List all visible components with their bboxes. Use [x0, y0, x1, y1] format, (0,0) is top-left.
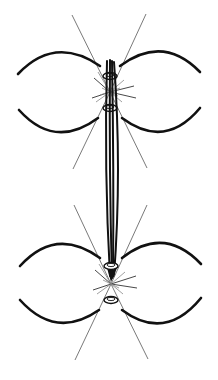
bottom-left-lower-arc [20, 300, 99, 323]
bottom-left-upper-arc [20, 244, 100, 266]
top-right-upper-arc [120, 51, 200, 72]
bottom-right-lower-arc [122, 298, 201, 323]
bottom-ray-upper-left [74, 205, 111, 284]
top-left-upper-arc [18, 52, 100, 74]
fiber-3 [112, 61, 113, 277]
bottom-right-upper-arc [122, 243, 201, 264]
spindle-diagram [0, 0, 218, 380]
top-ray-lower-left [73, 92, 110, 169]
top-left-lower-arc [19, 110, 98, 132]
top-right-lower-arc [122, 108, 200, 132]
bottom-ray-lower-left [75, 284, 111, 360]
